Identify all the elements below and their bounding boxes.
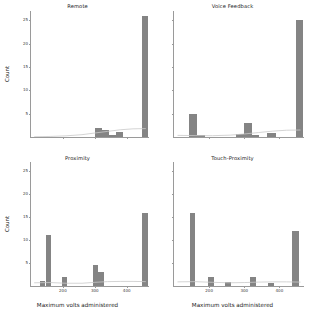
histogram-bar [250, 277, 256, 286]
plot-area: 510152025200300400 [30, 11, 149, 138]
x-tick-mark [209, 137, 210, 139]
x-tick-label: 200 [56, 289, 70, 293]
y-tick-mark [172, 20, 174, 21]
histogram-bar [109, 135, 116, 137]
x-tick-mark [279, 137, 280, 139]
y-axis-title: Count [4, 162, 12, 286]
y-tick-mark [172, 90, 174, 91]
x-tick-label: 300 [88, 289, 102, 293]
histogram-bar [142, 16, 148, 137]
x-tick-label: 400 [272, 289, 286, 293]
histogram-bar [142, 213, 148, 286]
y-tick-label: 5 [18, 261, 28, 265]
y-tick-mark [29, 44, 31, 45]
plot-area: 510152025200300400 [173, 162, 304, 287]
panel-touch-proximity: Touch-Proximity510152025200300400 [155, 152, 310, 327]
y-tick-mark [29, 217, 31, 218]
y-tick-mark [172, 263, 174, 264]
panel-title: Remote [0, 2, 155, 10]
y-tick-mark [172, 114, 174, 115]
histogram-bar [62, 277, 68, 286]
plot-inner [31, 11, 149, 137]
y-tick-mark [172, 44, 174, 45]
y-tick-label: 25 [18, 169, 28, 173]
plot-inner [174, 162, 304, 286]
histogram-bar [40, 281, 45, 286]
x-tick-mark [127, 137, 128, 139]
y-tick-mark [172, 171, 174, 172]
panel-title: Touch-Proximity [155, 154, 310, 162]
x-tick-mark [244, 137, 245, 139]
y-tick-mark [172, 240, 174, 241]
histogram-bar [98, 272, 104, 286]
y-tick-label: 10 [18, 238, 28, 242]
x-axis-title: Maximum volts administered [0, 302, 155, 308]
y-tick-mark [29, 90, 31, 91]
plot-inner [31, 162, 149, 286]
x-axis-title: Maximum volts administered [155, 302, 310, 308]
histogram-bar [252, 135, 260, 137]
histogram-bar [189, 114, 197, 137]
histogram-bar [268, 283, 274, 286]
plot-area: 510152025200300400 [30, 162, 149, 287]
x-tick-label: 200 [202, 289, 216, 293]
y-tick-label: 15 [18, 215, 28, 219]
plot-inner [174, 11, 304, 137]
panel-title: Proximity [0, 154, 155, 162]
histogram-bar [116, 132, 123, 137]
histogram-bar [267, 133, 275, 137]
y-tick-mark [29, 240, 31, 241]
x-tick-label: 300 [237, 289, 251, 293]
panel-voice-feedback: Voice Feedback510152025200300400 [155, 0, 310, 152]
y-tick-mark [29, 194, 31, 195]
y-tick-mark [29, 114, 31, 115]
histogram-bar [244, 123, 252, 137]
y-tick-label: 5 [18, 112, 28, 116]
histogram-bar [95, 128, 102, 137]
y-tick-label: 25 [18, 18, 28, 22]
panel-title: Voice Feedback [155, 2, 310, 10]
histogram-bar [46, 235, 51, 286]
y-axis-title: Count [4, 11, 12, 137]
histogram-bar [236, 134, 244, 137]
y-tick-mark [29, 263, 31, 264]
plot-area: 510152025200300400 [173, 11, 304, 138]
y-tick-mark [29, 20, 31, 21]
x-tick-mark [95, 137, 96, 139]
histogram-bar [190, 213, 196, 286]
x-tick-label: 400 [120, 289, 134, 293]
density-curve [31, 11, 149, 137]
faceted-histogram-figure: Remote510152025200300400Voice Feedback51… [0, 0, 310, 327]
y-tick-label: 15 [18, 65, 28, 69]
histogram-bar [225, 282, 231, 286]
y-tick-mark [29, 67, 31, 68]
panel-proximity: Proximity510152025200300400 [0, 152, 155, 327]
y-tick-label: 20 [18, 192, 28, 196]
histogram-bar [102, 130, 109, 137]
histogram-bar [197, 135, 205, 137]
x-tick-mark [63, 137, 64, 139]
panel-remote: Remote510152025200300400 [0, 0, 155, 152]
y-tick-label: 10 [18, 88, 28, 92]
y-tick-mark [172, 194, 174, 195]
facet-grid: Remote510152025200300400Voice Feedback51… [0, 0, 310, 327]
histogram-bar [292, 231, 299, 286]
y-tick-label: 20 [18, 42, 28, 46]
histogram-bar [296, 20, 303, 137]
histogram-bar [208, 277, 214, 286]
y-tick-mark [29, 171, 31, 172]
y-tick-mark [172, 67, 174, 68]
y-tick-mark [172, 217, 174, 218]
